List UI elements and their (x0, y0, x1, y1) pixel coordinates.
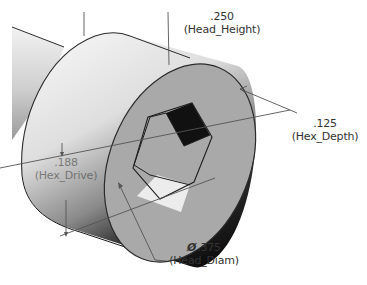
hex-drive-name: (Hex_Drive) (26, 169, 106, 182)
hex-drive-value: .188 (26, 156, 106, 169)
hex-drive-dimension: .188 (Hex_Drive) (26, 156, 106, 182)
hex-depth-name: (Hex_Depth) (285, 130, 365, 143)
head-diam-name: (Head_Diam) (153, 254, 255, 267)
head-diam-value: .375 (197, 241, 221, 254)
head-diam-value-row: Ø.375 (153, 241, 255, 254)
head-height-dimension: .250 (Head_Height) (166, 10, 278, 36)
head-height-name: (Head_Height) (166, 23, 278, 36)
head-height-value: .250 (166, 10, 278, 23)
hex-depth-dimension: .125 (Hex_Depth) (285, 117, 365, 143)
head-diam-dimension: Ø.375 (Head_Diam) (153, 241, 255, 267)
cad-drawing-canvas: .250 (Head_Height) .125 (Hex_Depth) Ø.37… (0, 0, 367, 285)
hex-depth-value: .125 (285, 117, 365, 130)
diameter-symbol-icon: Ø (187, 241, 196, 254)
